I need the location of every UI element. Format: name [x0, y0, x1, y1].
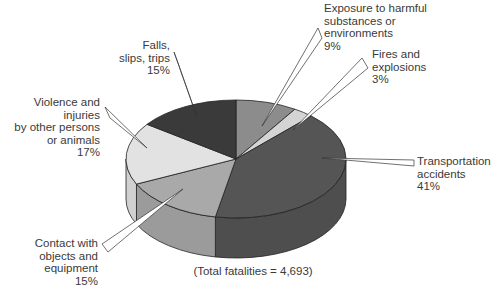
label-fires: Fires and explosions 3%: [372, 48, 426, 86]
leader-line-1: [293, 58, 368, 130]
label-transportation: Transportation accidents 41%: [417, 155, 491, 193]
label-contact: Contact with objects and equipment 15%: [20, 237, 98, 287]
leader-line-4: [105, 107, 147, 148]
total-fatalities-note: (Total fatalities = 4,693): [178, 265, 328, 278]
label-falls: Falls, slips, trips 15%: [110, 39, 170, 77]
label-exposure: Exposure to harmful substances or enviro…: [324, 2, 427, 52]
label-violence: Violence and injuries by other persons o…: [0, 96, 100, 159]
